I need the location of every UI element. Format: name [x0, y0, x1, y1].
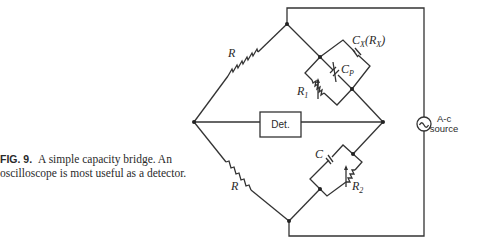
detector: Det.	[194, 112, 383, 137]
upper-left-resistor: R	[194, 24, 287, 122]
r2-label: R2	[351, 179, 363, 195]
upper-right-arm: CX(RX) CP R1	[287, 24, 385, 122]
c-label: C	[315, 147, 324, 161]
figure-caption: FIG. 9.A simple capacity bridge. An osci…	[0, 152, 200, 180]
resistor-label: R	[227, 46, 236, 60]
resistor-label: R	[230, 179, 239, 193]
detector-label: Det.	[271, 119, 289, 130]
top-wire	[287, 8, 424, 117]
cp-label: CP	[341, 62, 354, 78]
figure-label: FIG. 9.	[0, 153, 32, 165]
sine-wave-icon	[420, 123, 429, 128]
lower-right-arm: C R2	[289, 122, 383, 221]
cx-label: CX(RX)	[352, 33, 385, 49]
source-label-line2: source	[430, 123, 459, 134]
capacity-bridge-diagram: A-c source R R CX(RX) CP	[0, 0, 488, 245]
ac-source: A-c source	[417, 113, 458, 134]
r1-label: R1	[296, 84, 308, 100]
